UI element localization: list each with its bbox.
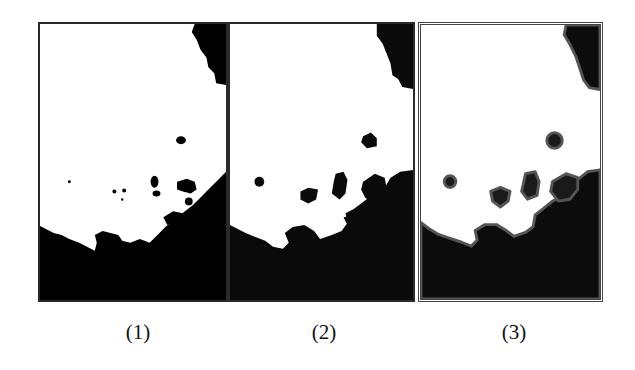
panel-3-image xyxy=(418,22,603,302)
panel-2-image xyxy=(228,22,415,302)
panel-3-caption: (3) xyxy=(484,320,544,345)
panel-1-caption: (1) xyxy=(108,320,168,345)
mask-image-1 xyxy=(40,24,226,300)
panel-1-image xyxy=(38,22,228,302)
mask-image-2 xyxy=(230,24,413,300)
mask-image-3 xyxy=(421,25,600,299)
panel-2-caption: (2) xyxy=(294,320,354,345)
